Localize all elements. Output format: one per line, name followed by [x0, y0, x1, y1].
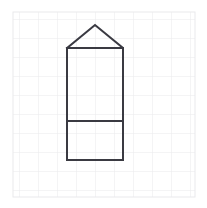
figure-canvas: [0, 0, 207, 208]
geometry-figure-svg: [0, 0, 207, 208]
grid-background: [13, 12, 195, 197]
